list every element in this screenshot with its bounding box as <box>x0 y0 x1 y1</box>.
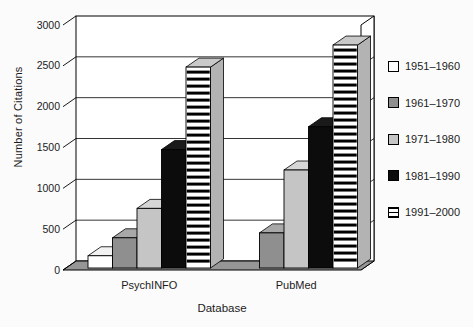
y-tick-500 <box>63 220 76 229</box>
bar-psychinfo-1951-1960 <box>88 256 113 268</box>
legend-label: 1991–2000 <box>405 206 460 218</box>
bar-psychinfo-1991-2000 <box>186 67 211 268</box>
bar-pubmed-1991-2000-stripe <box>334 203 357 206</box>
bar-pubmed-1991-2000-stripe <box>334 210 357 213</box>
legend-label: 1971–1980 <box>405 133 460 145</box>
legend-item-white: 1951–1960 <box>388 60 460 72</box>
bar-pubmed-1991-2000-stripe <box>334 140 357 143</box>
bar-pubmed-1971-1980 <box>284 170 309 268</box>
legend-swatch-gray-dark <box>388 97 399 108</box>
bar-psychinfo-1991-2000-stripe <box>187 239 210 242</box>
chart-figure: Number of Citations 05001000150020002500… <box>0 0 473 327</box>
bar-psychinfo-1991-2000-stripe <box>187 246 210 249</box>
y-tick-1500 <box>63 139 76 148</box>
bar-psychinfo-1961-1970 <box>113 238 138 268</box>
bar-pubmed-1991-2000-stripe <box>334 154 357 157</box>
x-axis-title: Database <box>197 302 246 314</box>
bar-pubmed-1961-1970 <box>260 233 285 268</box>
y-tick-1000 <box>63 179 76 188</box>
bar-pubmed-1991-2000-side <box>358 36 371 268</box>
y-tick-label-1000: 1000 <box>37 182 61 194</box>
bar-pubmed-1991-2000-stripe <box>334 133 357 136</box>
bar-psychinfo-1991-2000-stripe <box>187 260 210 263</box>
bar-pubmed-1991-2000-stripe <box>334 49 357 52</box>
legend-swatch-white <box>388 61 399 72</box>
bar-psychinfo-1991-2000-stripe <box>187 162 210 165</box>
bar-psychinfo-1991-2000-stripe <box>187 99 210 102</box>
y-tick-label-2000: 2000 <box>37 100 61 112</box>
bar-pubmed-1991-2000-stripe <box>334 238 357 241</box>
bar-psychinfo-1991-2000-stripe <box>187 225 210 228</box>
legend-item-striped: 1991–2000 <box>388 206 460 218</box>
bar-psychinfo-1991-2000-stripe <box>187 232 210 235</box>
bar-psychinfo-1991-2000-stripe <box>187 141 210 144</box>
y-tick-label-2500: 2500 <box>37 59 61 71</box>
bar-pubmed-1991-2000-stripe <box>334 175 357 178</box>
bar-pubmed-1991-2000-stripe <box>334 119 357 122</box>
bar-pubmed-1991-2000-stripe <box>334 77 357 80</box>
bar-pubmed-1991-2000-stripe <box>334 161 357 164</box>
bar-pubmed-1991-2000-stripe <box>334 189 357 192</box>
bar-psychinfo-1991-2000-stripe <box>187 211 210 214</box>
bar-psychinfo-1991-2000-stripe <box>187 218 210 221</box>
legend-item-gray-light: 1971–1980 <box>388 133 460 145</box>
y-tick-label-3000: 3000 <box>37 19 61 31</box>
category-label-pubmed: PubMed <box>276 279 317 291</box>
bar-psychinfo-1991-2000-stripe <box>187 176 210 179</box>
legend-item-gray-dark: 1961–1970 <box>388 97 460 109</box>
y-tick-label-1500: 1500 <box>37 141 61 153</box>
bar-psychinfo-1991-2000-stripe <box>187 148 210 151</box>
legend-swatch-striped <box>388 207 399 218</box>
legend-label: 1951–1960 <box>405 60 460 72</box>
bar-psychinfo-1991-2000-stripe <box>187 169 210 172</box>
bar-psychinfo-1991-2000-stripe <box>187 204 210 207</box>
bar-psychinfo-1991-2000-stripe <box>187 127 210 130</box>
bar-pubmed-1991-2000-stripe <box>334 126 357 129</box>
y-tick-2500 <box>63 57 76 66</box>
bar-pubmed-1991-2000-stripe <box>334 105 357 108</box>
bar-pubmed-1991-2000-stripe <box>334 112 357 115</box>
bar-pubmed-1991-2000-stripe <box>334 91 357 94</box>
legend-swatch-gray-light <box>388 134 399 145</box>
bar-pubmed-1991-2000-stripe <box>334 84 357 87</box>
bar-psychinfo-1991-2000-stripe <box>187 183 210 186</box>
bar-pubmed-1991-2000-stripe <box>334 196 357 199</box>
bar-pubmed-1991-2000-stripe <box>334 98 357 101</box>
y-tick-3000 <box>63 16 76 25</box>
bar-psychinfo-1991-2000-stripe <box>187 253 210 256</box>
bar-psychinfo-1991-2000-stripe <box>187 78 210 81</box>
legend-item-black: 1981–1990 <box>388 170 460 182</box>
legend-swatch-black <box>388 170 399 181</box>
bar-psychinfo-1981-1990 <box>162 150 187 268</box>
bar-pubmed-1991-2000-stripe <box>334 252 357 255</box>
bar-pubmed-1991-2000-stripe <box>334 56 357 59</box>
bar-psychinfo-1991-2000-stripe <box>187 190 210 193</box>
y-tick-2000 <box>63 98 76 107</box>
bar-psychinfo-1991-2000-stripe <box>187 92 210 95</box>
bar-psychinfo-1971-1980 <box>137 208 162 268</box>
bar-pubmed-1981-1990 <box>309 127 334 268</box>
bar-psychinfo-1991-2000-stripe <box>187 106 210 109</box>
bar-pubmed-1991-2000-stripe <box>334 70 357 73</box>
y-tick-label-0: 0 <box>54 264 60 276</box>
bar-pubmed-1991-2000-stripe <box>334 168 357 171</box>
bar-pubmed-1991-2000-stripe <box>334 245 357 248</box>
legend-label: 1961–1970 <box>405 97 460 109</box>
bar-psychinfo-1991-2000-stripe <box>187 155 210 158</box>
bar-psychinfo-1991-2000-stripe <box>187 85 210 88</box>
bar-psychinfo-1991-2000-stripe <box>187 197 210 200</box>
bar-psychinfo-1991-2000-side <box>211 58 224 268</box>
bar-pubmed-1991-2000-stripe <box>334 231 357 234</box>
bar-psychinfo-1991-2000-stripe <box>187 71 210 74</box>
bar-pubmed-1991-2000-stripe <box>334 182 357 185</box>
bar-pubmed-1991-2000-stripe <box>334 259 357 262</box>
category-label-psychinfo: PsychINFO <box>121 279 178 291</box>
legend: 1951–19601961–19701971–19801981–19901991… <box>388 60 460 218</box>
y-tick-label-500: 500 <box>42 223 60 235</box>
bar-pubmed-1991-2000-stripe <box>334 217 357 220</box>
bar-psychinfo-1991-2000-stripe <box>187 120 210 123</box>
bar-psychinfo-1991-2000-stripe <box>187 134 210 137</box>
bar-pubmed-1991-2000-stripe <box>334 147 357 150</box>
bar-pubmed-1991-2000-stripe <box>334 63 357 66</box>
legend-label: 1981–1990 <box>405 170 460 182</box>
